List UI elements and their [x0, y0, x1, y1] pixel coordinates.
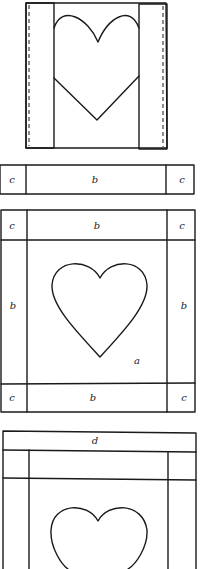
heart-icon: [52, 264, 147, 357]
svg-text:c: c: [179, 220, 185, 231]
left-strip: [26, 3, 54, 148]
svg-text:b: b: [94, 220, 100, 231]
svg-text:c: c: [9, 220, 15, 231]
svg-text:b: b: [181, 300, 187, 311]
label-c: c: [9, 174, 15, 185]
svg-text:c: c: [181, 392, 187, 403]
svg-text:b: b: [10, 300, 16, 311]
svg-text:c: c: [9, 392, 15, 403]
figure-2-strip: c b c: [0, 165, 194, 194]
label-c: c: [179, 174, 185, 185]
figure-4-final-block: d: [3, 431, 196, 569]
svg-text:a: a: [134, 355, 140, 366]
heart-icon: [51, 508, 147, 569]
block-outline: [26, 3, 167, 148]
svg-text:d: d: [92, 435, 98, 446]
quilt-diagram: c b c c b c b b a c b c d: [0, 0, 201, 569]
figure-1-heart-block: [26, 3, 167, 149]
label-b: b: [92, 174, 98, 185]
heart-top: [54, 16, 139, 42]
figure-3-assembled-block: c b c b b a c b c: [1, 210, 195, 412]
svg-text:b: b: [90, 392, 96, 403]
heart-bottom: [54, 76, 139, 120]
